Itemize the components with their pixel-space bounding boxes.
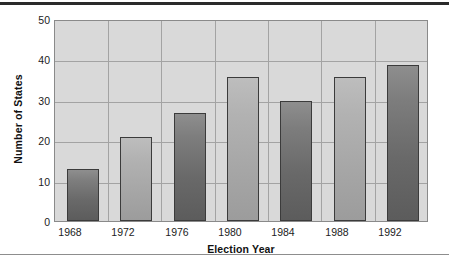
x-tick-label-1968: 1968 [40, 226, 100, 238]
y-tick-label-50: 50 [26, 15, 50, 25]
bar-1992[interactable] [387, 65, 419, 221]
y-axis-title: Number of States [12, 54, 24, 184]
bar-1976[interactable] [174, 113, 206, 221]
y-tick-label-30: 30 [26, 96, 50, 106]
x-tick-label-1980: 1980 [200, 226, 260, 238]
bar-chart-figure: 50 40 30 20 10 0 Number of States 1968 1… [0, 0, 449, 271]
x-tick-label-1976: 1976 [147, 226, 207, 238]
top-divider-rule [0, 2, 449, 5]
plot-area [54, 20, 428, 222]
y-tick-label-20: 20 [26, 136, 50, 146]
x-tick-label-1992: 1992 [360, 226, 420, 238]
bottom-divider-rule [0, 254, 449, 255]
bars-layer [55, 21, 427, 221]
bar-1972[interactable] [120, 137, 152, 221]
x-tick-label-1984: 1984 [253, 226, 313, 238]
y-tick-label-10: 10 [26, 177, 50, 187]
bar-1980[interactable] [227, 77, 259, 221]
x-tick-label-1988: 1988 [307, 226, 367, 238]
bar-1968[interactable] [67, 169, 99, 221]
y-tick-label-40: 40 [26, 55, 50, 65]
bar-1984[interactable] [280, 101, 312, 221]
bar-1988[interactable] [334, 77, 366, 221]
x-tick-label-1972: 1972 [93, 226, 153, 238]
